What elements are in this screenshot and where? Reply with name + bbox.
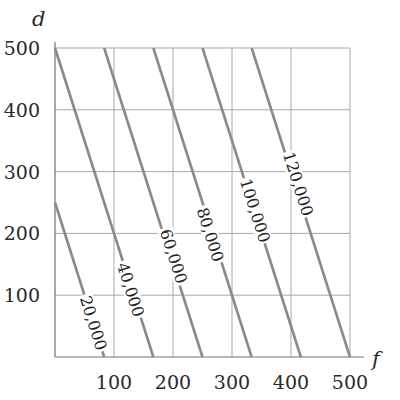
y-tick-label: 500	[4, 37, 40, 59]
axes	[55, 42, 364, 357]
y-tick-label: 400	[4, 99, 40, 121]
contour-label-group: 80,000	[192, 203, 228, 266]
contour-label-group: 120,000	[279, 149, 318, 220]
y-tick-label: 100	[4, 284, 40, 306]
contour-label-group: 60,000	[155, 225, 191, 288]
contour-label: 40,000	[113, 260, 148, 319]
contour-line-60000	[104, 48, 202, 357]
x-axis-title: f	[370, 347, 383, 371]
y-tick-label: 200	[4, 222, 40, 244]
contour-label-group: 100,000	[236, 175, 275, 246]
contour-chart: 20,00040,00060,00080,000100,000120,000 1…	[0, 0, 400, 400]
y-tick-label: 300	[4, 161, 40, 183]
x-tick-label: 500	[332, 371, 368, 393]
x-tick-label: 300	[214, 371, 250, 393]
contour-line-80000	[153, 48, 251, 357]
contour-label: 20,000	[76, 293, 111, 352]
x-tick-label: 100	[96, 371, 132, 393]
x-tick-label: 400	[273, 371, 309, 393]
y-axis-title: d	[32, 7, 45, 31]
contour-label: 120,000	[279, 150, 317, 219]
contour-label: 100,000	[236, 176, 274, 245]
contour-label: 60,000	[156, 227, 191, 286]
contour-label-group: 40,000	[112, 258, 148, 321]
contour-label: 80,000	[193, 205, 228, 264]
x-tick-label: 200	[155, 371, 191, 393]
contour-label-group: 20,000	[75, 292, 111, 355]
